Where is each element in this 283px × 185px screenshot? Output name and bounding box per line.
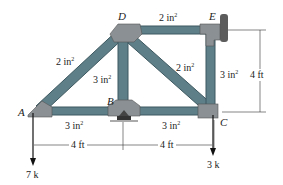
area-label-AB: 3 in2 <box>65 120 83 131</box>
node-label-A: A <box>18 107 25 118</box>
area-label-BD: 3 in2 <box>93 74 111 85</box>
load-label-C: 3 k <box>207 160 220 170</box>
area-label-DE: 2 in2 <box>159 12 177 23</box>
node-label-C: C <box>220 117 227 128</box>
node-label-D: D <box>118 11 126 22</box>
dim-label-height: 4 ft <box>250 69 264 81</box>
node-label-B: B <box>107 96 114 107</box>
area-label-DC: 2 in2 <box>176 62 194 73</box>
wall-support-E <box>220 14 228 42</box>
area-label-EC: 3 in2 <box>220 69 238 80</box>
gusset-C <box>198 104 218 118</box>
dim-label-BC: 4 ft <box>158 140 176 150</box>
gusset-E <box>200 24 220 46</box>
truss-diagram <box>0 0 283 185</box>
area-label-AD: 2 in2 <box>56 56 74 67</box>
load-label-A: 7 k <box>26 170 39 180</box>
area-label-BC: 3 in2 <box>162 120 180 131</box>
node-label-E: E <box>209 11 216 22</box>
dim-label-AB: 4 ft <box>69 140 87 150</box>
